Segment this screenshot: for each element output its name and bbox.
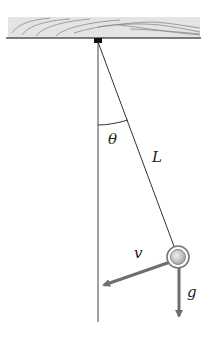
velocity-label: v [134, 244, 143, 262]
pendulum-string [98, 42, 178, 257]
gravity-label: g [187, 283, 197, 301]
pendulum-diagram: θ L v g [0, 0, 209, 346]
length-label: L [151, 148, 162, 166]
ceiling-board [6, 17, 201, 38]
velocity-vector [104, 260, 176, 285]
pendulum-bob [167, 246, 189, 268]
angle-label: θ [108, 130, 117, 148]
angle-arc [98, 120, 128, 125]
